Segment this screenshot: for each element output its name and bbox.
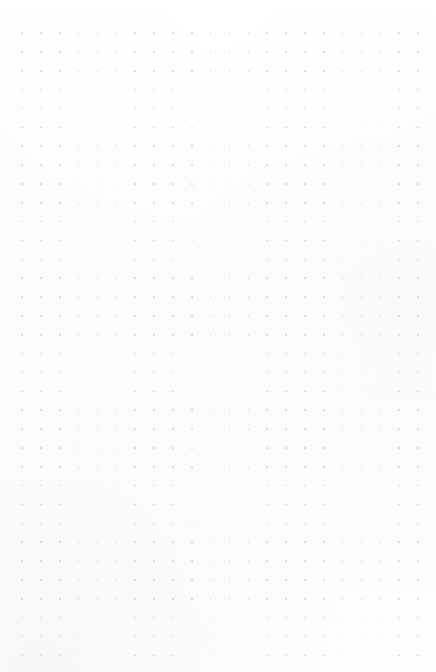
grid-dot — [248, 391, 250, 393]
grid-dot — [266, 523, 268, 525]
grid-dot — [40, 485, 42, 487]
grid-dot — [380, 127, 382, 129]
grid-dot — [59, 541, 61, 543]
grid-dot — [40, 409, 42, 411]
grid-dot — [210, 447, 212, 449]
grid-dot — [304, 372, 306, 374]
grid-dot — [380, 485, 382, 487]
grid-dot — [40, 504, 42, 506]
grid-dot — [361, 541, 363, 543]
grid-dot — [304, 145, 306, 147]
grid-dot — [21, 296, 23, 298]
grid-dot — [78, 447, 80, 449]
grid-dot — [398, 277, 400, 279]
grid-dot — [59, 127, 61, 129]
grid-dot — [266, 51, 268, 53]
grid-dot — [153, 32, 155, 34]
grid-dot — [172, 51, 174, 53]
grid-dot — [417, 164, 419, 166]
grid-dot — [248, 202, 250, 204]
grid-dot — [229, 202, 231, 204]
grid-dot — [398, 164, 400, 166]
grid-dot — [78, 202, 80, 204]
grid-dot — [21, 541, 23, 543]
grid-dot — [153, 334, 155, 336]
grid-dot — [59, 334, 61, 336]
grid-dot — [40, 202, 42, 204]
grid-dot — [361, 504, 363, 506]
grid-dot — [191, 32, 193, 34]
grid-dot — [134, 409, 136, 411]
grid-dot — [78, 504, 80, 506]
grid-dot — [248, 353, 250, 355]
grid-dot — [266, 183, 268, 185]
grid-dot — [342, 315, 344, 317]
grid-dot — [172, 353, 174, 355]
grid-dot — [40, 296, 42, 298]
grid-dot — [304, 164, 306, 166]
grid-dot — [342, 636, 344, 638]
grid-dot — [285, 391, 287, 393]
grid-dot — [266, 617, 268, 619]
grid-dot — [172, 428, 174, 430]
grid-dot — [191, 598, 193, 600]
grid-dot — [285, 447, 287, 449]
grid-dot — [21, 353, 23, 355]
grid-dot — [398, 579, 400, 581]
grid-dot — [21, 579, 23, 581]
grid-dot — [380, 51, 382, 53]
grid-dot — [361, 636, 363, 638]
grid-dot — [323, 617, 325, 619]
grid-dot — [210, 259, 212, 261]
grid-dot — [417, 523, 419, 525]
grid-dot — [97, 353, 99, 355]
grid-dot — [380, 315, 382, 317]
grid-dot — [78, 598, 80, 600]
grid-dot — [21, 655, 23, 657]
grid-dot — [417, 447, 419, 449]
grid-dot — [342, 541, 344, 543]
grid-dot — [417, 579, 419, 581]
grid-dot — [417, 259, 419, 261]
grid-dot — [342, 579, 344, 581]
grid-dot — [134, 579, 136, 581]
grid-dot — [59, 523, 61, 525]
grid-dot — [78, 391, 80, 393]
grid-dot — [134, 334, 136, 336]
grid-dot — [304, 485, 306, 487]
grid-dot — [21, 51, 23, 53]
grid-dot — [153, 296, 155, 298]
grid-dot — [266, 598, 268, 600]
grid-dot — [210, 70, 212, 72]
grid-dot — [134, 32, 136, 34]
grid-dot — [248, 70, 250, 72]
grid-dot — [361, 108, 363, 110]
grid-dot — [134, 485, 136, 487]
grid-dot — [417, 466, 419, 468]
grid-dot — [323, 598, 325, 600]
grid-dot — [97, 541, 99, 543]
grid-dot — [134, 466, 136, 468]
grid-dot — [323, 523, 325, 525]
grid-dot — [248, 183, 250, 185]
grid-dot — [172, 560, 174, 562]
grid-dot — [134, 428, 136, 430]
grid-dot — [97, 221, 99, 223]
grid-dot — [417, 409, 419, 411]
grid-dot — [97, 485, 99, 487]
grid-dot — [172, 504, 174, 506]
grid-dot — [304, 655, 306, 657]
grid-dot — [134, 655, 136, 657]
grid-dot — [40, 240, 42, 242]
grid-dot — [40, 164, 42, 166]
grid-dot — [191, 485, 193, 487]
grid-dot — [40, 523, 42, 525]
grid-dot — [417, 145, 419, 147]
grid-dot — [210, 466, 212, 468]
grid-dot — [248, 523, 250, 525]
grid-dot — [40, 277, 42, 279]
grid-dot — [342, 655, 344, 657]
grid-dot — [40, 598, 42, 600]
grid-dot — [153, 202, 155, 204]
grid-dot — [398, 391, 400, 393]
